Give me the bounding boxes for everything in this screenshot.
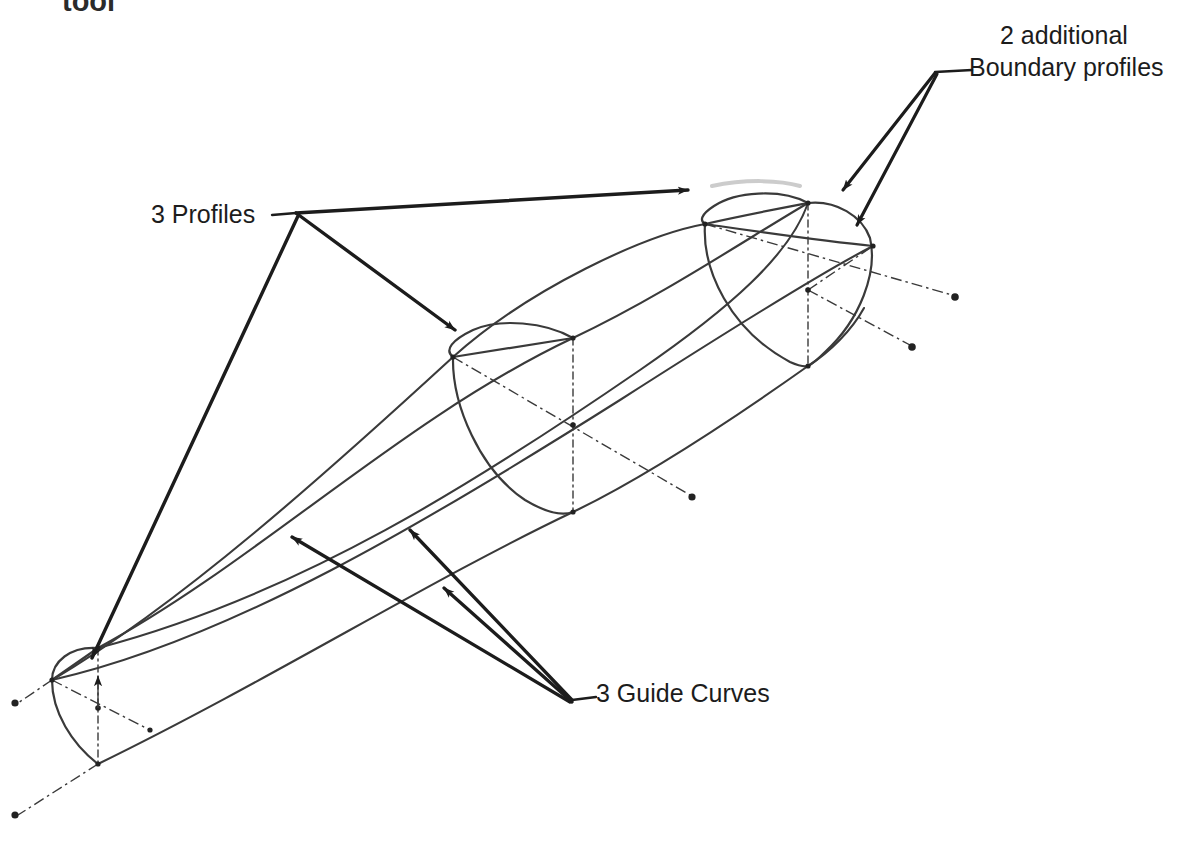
leader-arrow-to-guide-upper-left (292, 537, 570, 702)
centerline-small-lower (18, 764, 98, 815)
guide-curve-top (98, 203, 808, 648)
centerline-large-mid (808, 246, 873, 290)
boundary-profiles-label-line1: 2 additional (1000, 20, 1128, 50)
leader-stub-guides (572, 697, 596, 700)
profile-vertex-marker (570, 335, 575, 340)
bottom-curve-tail (808, 308, 864, 366)
diagram-root: tool 2 additional Boundary profiles 3 Pr… (0, 0, 1204, 849)
clipped-top-text: tool (62, 0, 115, 16)
callout-boundary-profiles (843, 70, 972, 225)
large-profile-outline-body (705, 224, 808, 366)
boundary-profiles-label-line2: Boundary profiles (969, 52, 1164, 82)
centerline-endpoint-dot (951, 293, 959, 301)
centerline-endpoint-dot (11, 811, 18, 818)
centerline-small-diag (52, 680, 150, 730)
profile-vertex-marker (49, 677, 54, 682)
leader-stub-profiles (272, 213, 296, 215)
scan-smudge (712, 181, 800, 186)
outer-silhouette-right (52, 246, 873, 680)
large-profile-outline-right (808, 203, 872, 366)
guide-curves-label: 3 Guide Curves (596, 678, 770, 708)
large-profile-outline-left (702, 193, 808, 224)
profile-vertex-marker (702, 221, 707, 226)
profile-vertex-marker (870, 243, 875, 248)
large-right-profile (702, 193, 873, 366)
profile-vertex-marker (147, 727, 152, 732)
centerline-endpoint-dot (688, 493, 695, 500)
leader-arrow-to-guide-top (410, 530, 572, 700)
middle-profile (449, 323, 573, 513)
large-profile-markers (702, 200, 958, 368)
leader-arrow-to-boundary-2 (857, 74, 937, 225)
profile-vertex-marker (805, 200, 810, 205)
profiles-label: 3 Profiles (151, 199, 255, 229)
leader-arrow-to-boundary-1 (843, 73, 935, 190)
small-left-profile (52, 648, 98, 764)
boundary-profile-arc-1 (705, 224, 873, 246)
loft-diagram-canvas (0, 0, 1204, 849)
centerline-endpoint-dot (11, 699, 18, 706)
centerline-small-left (18, 680, 52, 703)
profile-vertex-marker (450, 354, 455, 359)
profile-vertex-marker (570, 509, 575, 514)
leader-arrow-to-large-profile (296, 190, 688, 213)
small-profile-center-markers (11, 645, 152, 818)
leader-arrow-to-middle-profile (296, 213, 455, 330)
profile-vertex-marker (805, 363, 810, 368)
profile-vertex-marker (95, 761, 100, 766)
centerline-large-upper (705, 224, 952, 295)
leader-stub-boundary (935, 70, 972, 72)
leader-arrow-to-small-profile (92, 216, 298, 658)
leader-arrow-to-guide-bottom (444, 588, 572, 702)
profile-center-marker (805, 287, 811, 293)
callout-3-profiles (92, 190, 688, 658)
middle-profile-outline-lower (453, 357, 573, 514)
boundary-profile-arc-2 (705, 203, 808, 224)
profile-center-marker (570, 422, 576, 428)
centerline-endpoint-dot (908, 343, 916, 351)
guide-curve-upper-left (52, 224, 705, 680)
